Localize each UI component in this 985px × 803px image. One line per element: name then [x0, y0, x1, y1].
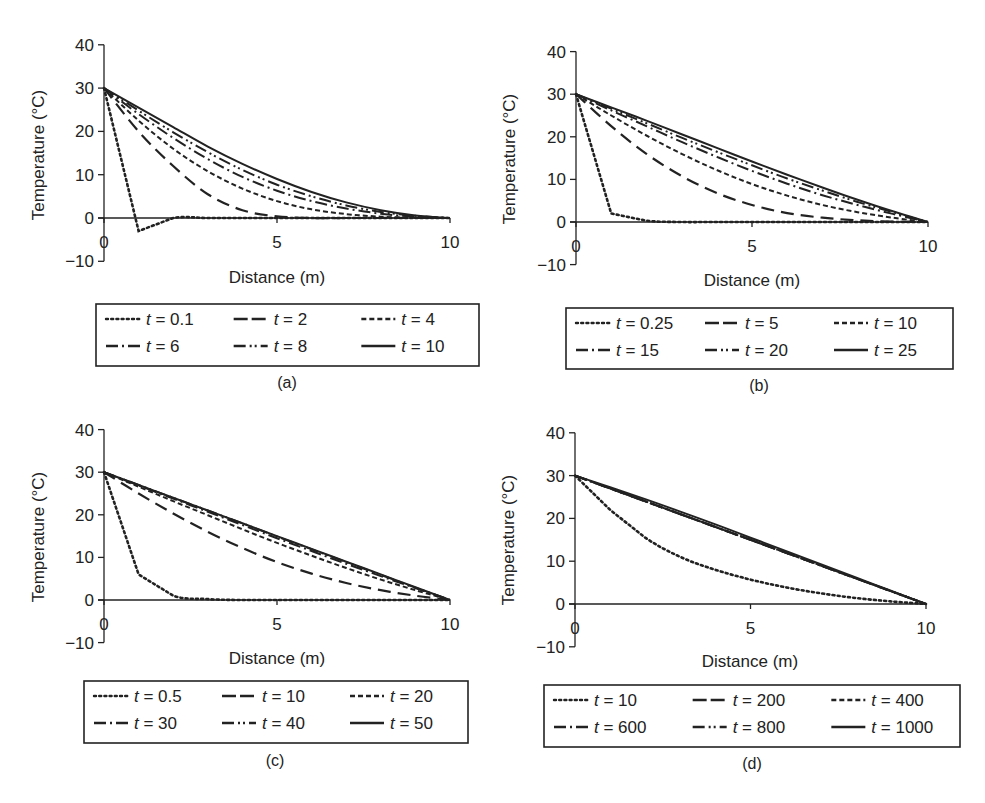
legend-label: t = 10 — [874, 314, 917, 333]
y-tick-label: 40 — [75, 421, 94, 440]
series-line-solid — [576, 94, 928, 222]
legend-value: = 4 — [406, 310, 435, 329]
x-tick-label: 10 — [441, 233, 460, 252]
legend-value: = 50 — [395, 714, 433, 733]
series-line-solid — [104, 88, 450, 218]
x-tick-label: 5 — [746, 619, 755, 638]
x-tick-label: 5 — [747, 237, 756, 256]
legend-label: t = 10 — [401, 337, 444, 356]
y-tick-label: 20 — [75, 506, 94, 525]
legend-label: t = 10 — [262, 687, 305, 706]
y-tick-label: 30 — [546, 467, 565, 486]
panel-d-x-axis-title: Distance (m) — [702, 652, 798, 671]
panel-c-x-axis-title: Distance (m) — [229, 649, 325, 668]
y-tick-label: 0 — [557, 213, 566, 232]
panel-c: 403020100−100510 Distance (m) Temperatur… — [29, 421, 468, 769]
y-tick-label: 30 — [547, 85, 566, 104]
y-tick-label: 10 — [547, 170, 566, 189]
x-tick-label: 10 — [917, 619, 936, 638]
panel-d-plot-area: 403020100−100510 — [536, 424, 935, 657]
y-tick-label: 20 — [75, 122, 94, 141]
panel-b: 403020100−100510 Distance (m) Temperatur… — [500, 43, 953, 394]
legend-value: = 800 — [737, 718, 785, 737]
y-tick-label: −10 — [536, 638, 565, 657]
y-tick-label: 30 — [75, 79, 94, 98]
series-line-dotted — [104, 88, 450, 231]
panel-a-caption: (a) — [277, 374, 297, 391]
y-tick-label: 40 — [546, 424, 565, 443]
legend-value: = 0.5 — [139, 687, 182, 706]
legend-label: t = 8 — [274, 337, 308, 356]
y-tick-label: 20 — [546, 509, 565, 528]
panel-d-caption: (d) — [742, 755, 762, 772]
legend-label: t = 800 — [733, 718, 785, 737]
series-line-solid — [104, 472, 450, 600]
legend-value: = 8 — [278, 337, 307, 356]
legend-value: = 0.1 — [151, 310, 194, 329]
y-tick-label: 0 — [85, 209, 94, 228]
panel-a-y-axis-title: Temperature (°C) — [29, 90, 48, 221]
x-tick-label: 0 — [570, 619, 579, 638]
legend-value: = 2 — [278, 310, 307, 329]
legend-value: = 10 — [406, 337, 444, 356]
legend-label: t = 5 — [745, 314, 779, 333]
y-tick-label: 10 — [546, 552, 565, 571]
y-tick-label: 20 — [547, 128, 566, 147]
legend-label: t = 40 — [262, 714, 305, 733]
y-tick-label: 10 — [75, 548, 94, 567]
panel-b-plot-area: 403020100−100510 — [537, 43, 937, 275]
panel-b-caption: (b) — [749, 377, 769, 394]
legend-label: t = 400 — [871, 691, 923, 710]
y-tick-label: −10 — [537, 256, 566, 275]
series-line-long-dash — [104, 88, 450, 218]
x-tick-label: 5 — [272, 615, 281, 634]
y-tick-label: 30 — [75, 463, 94, 482]
y-tick-label: −10 — [65, 634, 94, 653]
legend-value: = 40 — [267, 714, 305, 733]
panel-d: 403020100−100510 Distance (m) Temperatur… — [499, 424, 960, 772]
legend-label: t = 200 — [733, 691, 785, 710]
legend-value: = 1000 — [876, 718, 933, 737]
y-tick-label: 0 — [85, 591, 94, 610]
panel-d-legend: t = 10t = 200t = 400t = 600t = 800t = 10… — [544, 685, 960, 747]
legend-label: t = 600 — [594, 718, 646, 737]
legend-value: = 400 — [876, 691, 924, 710]
legend-value: = 5 — [750, 314, 779, 333]
legend-label: t = 10 — [594, 691, 637, 710]
panel-c-plot-area: 403020100−100510 — [65, 421, 459, 653]
legend-label: t = 0.1 — [146, 310, 194, 329]
x-tick-label: 0 — [571, 237, 580, 256]
legend-label: t = 0.5 — [134, 687, 182, 706]
legend-label: t = 15 — [616, 341, 659, 360]
panel-a-x-axis-title: Distance (m) — [229, 268, 325, 287]
y-tick-label: 40 — [75, 36, 94, 55]
legend-label: t = 6 — [146, 337, 180, 356]
panel-b-y-axis-title: Temperature (°C) — [500, 94, 519, 225]
legend-value: = 10 — [599, 691, 637, 710]
legend-label: t = 50 — [390, 714, 433, 733]
panel-a-plot-area: 403020100−100510 — [65, 36, 459, 271]
legend-value: = 20 — [395, 687, 433, 706]
legend-value: = 10 — [267, 687, 305, 706]
legend-value: = 200 — [737, 691, 785, 710]
legend-label: t = 0.25 — [616, 314, 673, 333]
figure-canvas: 403020100−100510 Distance (m) Temperatur… — [0, 0, 985, 803]
series-line-dash-dot-dot — [104, 88, 450, 218]
x-tick-label: 0 — [99, 233, 108, 252]
y-tick-label: 0 — [556, 595, 565, 614]
panel-c-y-axis-title: Temperature (°C) — [29, 472, 48, 603]
panel-b-x-axis-title: Distance (m) — [704, 271, 800, 290]
legend-label: t = 25 — [874, 341, 917, 360]
legend-label: t = 2 — [274, 310, 308, 329]
legend-label: t = 30 — [134, 714, 177, 733]
legend-value: = 6 — [151, 337, 180, 356]
panel-c-legend: t = 0.5t = 10t = 20t = 30t = 40t = 50 — [84, 681, 468, 743]
legend-label: t = 4 — [401, 310, 435, 329]
panel-b-legend: t = 0.25t = 5t = 10t = 15t = 20t = 25 — [566, 308, 953, 369]
legend-value: = 20 — [750, 341, 788, 360]
y-tick-label: 40 — [547, 43, 566, 62]
panel-a: 403020100−100510 Distance (m) Temperatur… — [29, 36, 479, 391]
legend-label: t = 1000 — [871, 718, 933, 737]
legend-value: = 600 — [599, 718, 647, 737]
legend-value: = 15 — [621, 341, 659, 360]
